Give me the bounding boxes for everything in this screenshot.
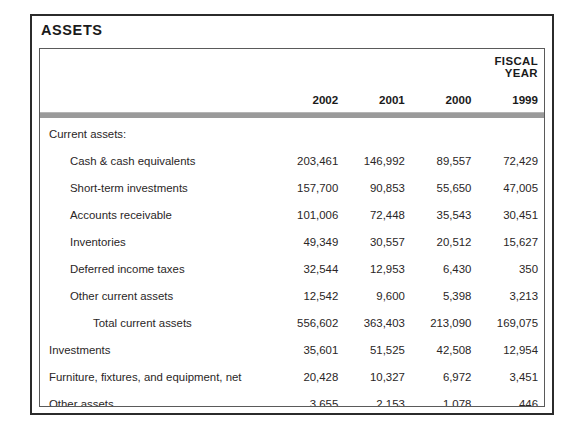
balance-sheet-assets-page: ASSETS FISCAL YEAR 20 bbox=[0, 0, 581, 433]
row-value-2001: 10,327 bbox=[344, 363, 411, 390]
row-value-1999: 3,213 bbox=[477, 282, 544, 309]
row-label: Inventories bbox=[40, 228, 278, 255]
row-value-2002 bbox=[278, 118, 345, 147]
table-body: Current assets:Cash & cash equivalents20… bbox=[40, 118, 544, 407]
row-value-2002: 49,349 bbox=[278, 228, 345, 255]
row-value-2000: 6,972 bbox=[411, 363, 478, 390]
row-value-2001: 2,153 bbox=[344, 390, 411, 407]
row-value-2001: 9,600 bbox=[344, 282, 411, 309]
row-value-1999: 72,429 bbox=[477, 147, 544, 174]
column-header-2002: 2002 bbox=[278, 80, 345, 113]
row-value-1999: 350 bbox=[477, 255, 544, 282]
table-row: Total current assets556,602363,403213,09… bbox=[40, 309, 544, 336]
assets-card: ASSETS FISCAL YEAR 20 bbox=[30, 14, 554, 415]
table-row: Short-term investments157,70090,85355,65… bbox=[40, 174, 544, 201]
table-row: Other assets3,6552,1531,078446 bbox=[40, 390, 544, 407]
column-header-2001: 2001 bbox=[344, 80, 411, 113]
row-value-1999: 12,954 bbox=[477, 336, 544, 363]
row-value-2000: 42,508 bbox=[411, 336, 478, 363]
row-value-2001: 72,448 bbox=[344, 201, 411, 228]
fiscal-year-spacer bbox=[40, 49, 477, 80]
row-value-1999: 15,627 bbox=[477, 228, 544, 255]
page-title: ASSETS bbox=[41, 22, 103, 38]
row-label: Other current assets bbox=[40, 282, 278, 309]
row-label: Investments bbox=[40, 336, 278, 363]
row-label: Other assets bbox=[40, 390, 278, 407]
table-row: Furniture, fixtures, and equipment, net2… bbox=[40, 363, 544, 390]
table-row: Inventories49,34930,55720,51215,627 bbox=[40, 228, 544, 255]
row-label: Total current assets bbox=[40, 309, 278, 336]
row-value-2001: 51,525 bbox=[344, 336, 411, 363]
fiscal-year-row: FISCAL YEAR bbox=[40, 49, 544, 80]
row-value-1999: 169,075 bbox=[477, 309, 544, 336]
table-row: Cash & cash equivalents203,461146,99289,… bbox=[40, 147, 544, 174]
row-value-1999: 47,005 bbox=[477, 174, 544, 201]
column-header-2000: 2000 bbox=[411, 80, 478, 113]
year-header-row: 2002 2001 2000 1999 bbox=[40, 80, 544, 113]
row-value-2000: 35,543 bbox=[411, 201, 478, 228]
row-value-2001: 30,557 bbox=[344, 228, 411, 255]
row-value-2002: 101,006 bbox=[278, 201, 345, 228]
row-value-1999: 30,451 bbox=[477, 201, 544, 228]
row-value-1999: 446 bbox=[477, 390, 544, 407]
row-value-2002: 12,542 bbox=[278, 282, 345, 309]
row-value-2002: 32,544 bbox=[278, 255, 345, 282]
row-value-2001: 12,953 bbox=[344, 255, 411, 282]
column-header-1999: 1999 bbox=[477, 80, 544, 113]
row-value-2002: 20,428 bbox=[278, 363, 345, 390]
assets-table: FISCAL YEAR 2002 2001 2000 1999 Current … bbox=[40, 49, 544, 407]
row-value-1999: 3,451 bbox=[477, 363, 544, 390]
row-value-2000: 55,650 bbox=[411, 174, 478, 201]
table-row: Current assets: bbox=[40, 118, 544, 147]
fiscal-year-label: FISCAL YEAR bbox=[477, 49, 544, 80]
row-label: Furniture, fixtures, and equipment, net bbox=[40, 363, 278, 390]
row-value-2000: 5,398 bbox=[411, 282, 478, 309]
row-value-2001: 146,992 bbox=[344, 147, 411, 174]
row-label: Short-term investments bbox=[40, 174, 278, 201]
row-label: Cash & cash equivalents bbox=[40, 147, 278, 174]
row-value-2000: 213,090 bbox=[411, 309, 478, 336]
table-row: Accounts receivable101,00672,44835,54330… bbox=[40, 201, 544, 228]
table-row: Deferred income taxes32,54412,9536,43035… bbox=[40, 255, 544, 282]
row-value-2002: 35,601 bbox=[278, 336, 345, 363]
row-value-1999 bbox=[477, 118, 544, 147]
row-value-2000: 1,078 bbox=[411, 390, 478, 407]
row-value-2002: 3,655 bbox=[278, 390, 345, 407]
row-value-2002: 157,700 bbox=[278, 174, 345, 201]
row-value-2000 bbox=[411, 118, 478, 147]
row-value-2000: 89,557 bbox=[411, 147, 478, 174]
table-row: Other current assets12,5429,6005,3983,21… bbox=[40, 282, 544, 309]
row-value-2001: 90,853 bbox=[344, 174, 411, 201]
row-value-2000: 20,512 bbox=[411, 228, 478, 255]
row-value-2001: 363,403 bbox=[344, 309, 411, 336]
row-value-2000: 6,430 bbox=[411, 255, 478, 282]
row-label: Current assets: bbox=[40, 118, 278, 147]
assets-table-frame: FISCAL YEAR 2002 2001 2000 1999 Current … bbox=[39, 48, 545, 407]
row-value-2002: 203,461 bbox=[278, 147, 345, 174]
row-value-2002: 556,602 bbox=[278, 309, 345, 336]
table-header: FISCAL YEAR 2002 2001 2000 1999 bbox=[40, 49, 544, 118]
table-row: Investments35,60151,52542,50812,954 bbox=[40, 336, 544, 363]
row-label: Deferred income taxes bbox=[40, 255, 278, 282]
row-label: Accounts receivable bbox=[40, 201, 278, 228]
row-value-2001 bbox=[344, 118, 411, 147]
year-header-spacer bbox=[40, 80, 278, 113]
